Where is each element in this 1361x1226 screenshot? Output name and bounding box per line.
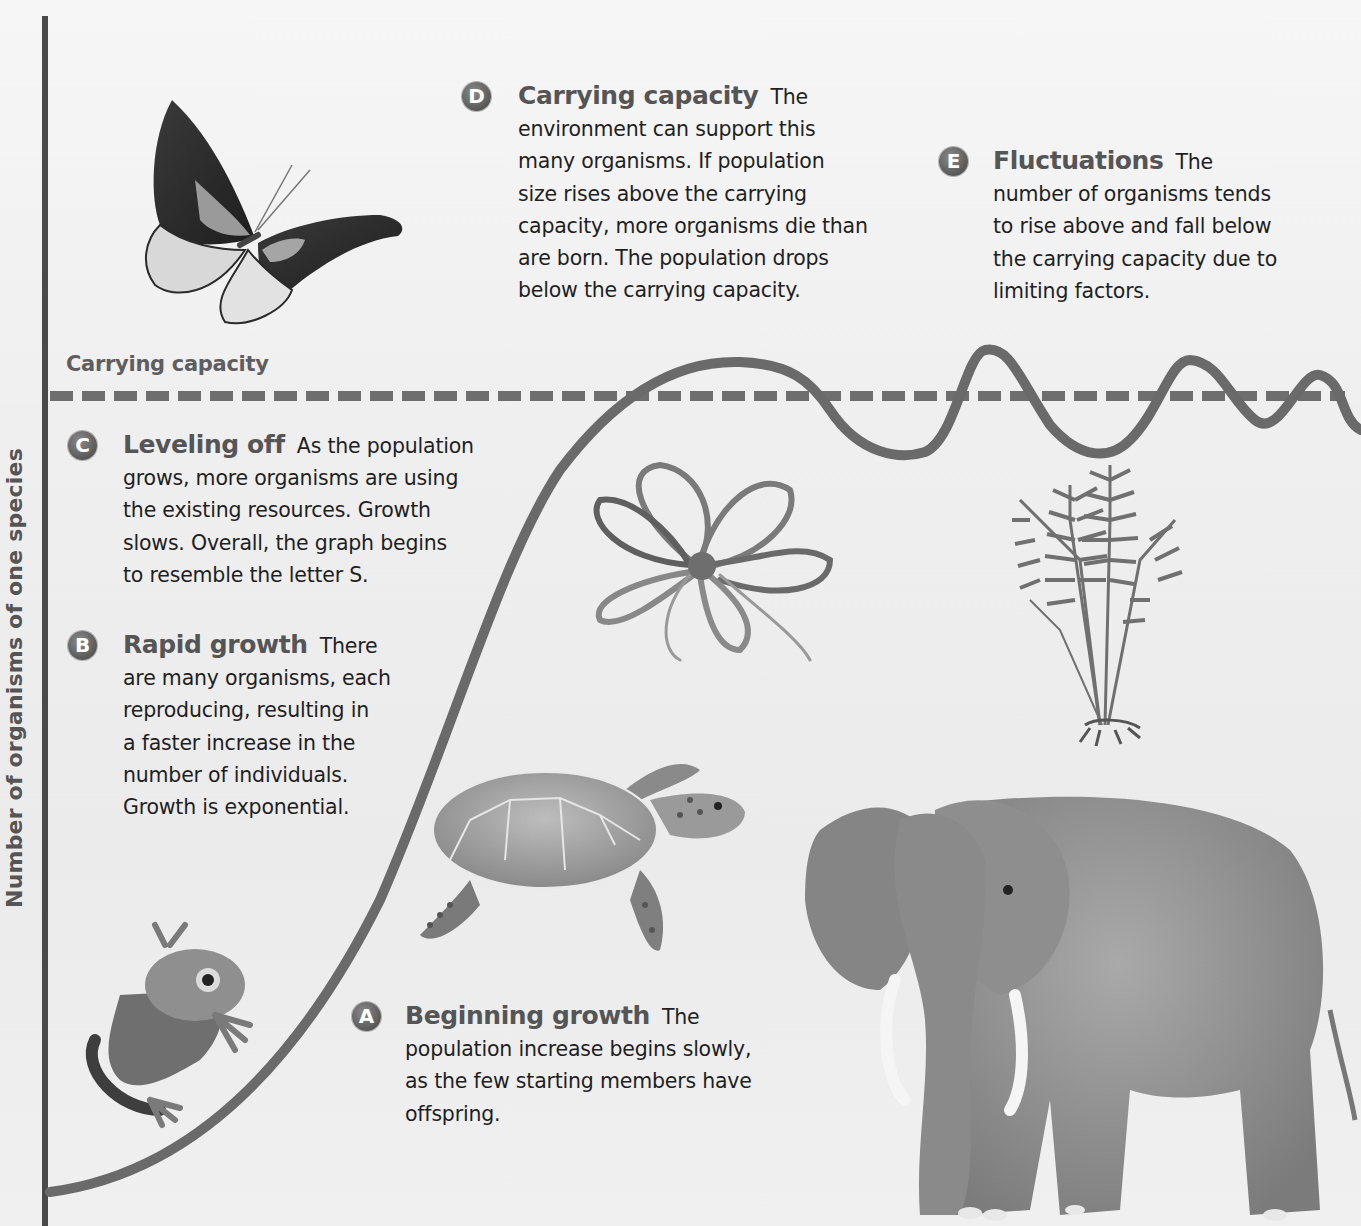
callout-line: capacity, more organisms die than xyxy=(518,210,868,242)
callout-leveling-off: C Leveling off As the population grows, … xyxy=(123,429,474,591)
badge-c-icon: C xyxy=(68,431,97,460)
callout-line: offspring. xyxy=(405,1098,752,1130)
sea-anemone-illustration xyxy=(597,465,830,660)
callout-line: grows, more organisms are using xyxy=(123,462,474,494)
callout-line: number of organisms tends xyxy=(993,178,1277,210)
callout-line: below the carrying capacity. xyxy=(518,274,868,306)
callout-lead: As the population xyxy=(297,430,474,462)
callout-lead: The xyxy=(662,1001,700,1033)
y-axis-line xyxy=(42,16,48,1226)
callout-heading: Carrying capacity xyxy=(518,80,758,112)
callout-line: the carrying capacity due to xyxy=(993,243,1277,275)
callout-line: a faster increase in the xyxy=(123,727,391,759)
callout-line: to resemble the letter S. xyxy=(123,559,474,591)
callout-line: population increase begins slowly, xyxy=(405,1033,752,1065)
callout-heading: Fluctuations xyxy=(993,145,1163,177)
callout-line: to rise above and fall below xyxy=(993,210,1277,242)
callout-beginning-growth: A Beginning growth The population increa… xyxy=(405,1000,752,1130)
badge-e-icon: E xyxy=(939,147,968,176)
frog-illustration xyxy=(92,925,250,1125)
callout-line: the existing resources. Growth xyxy=(123,494,474,526)
callout-rapid-growth: B Rapid growth There are many organisms,… xyxy=(123,629,391,823)
callout-lead: The xyxy=(1175,146,1213,178)
callout-line: reproducing, resulting in xyxy=(123,694,391,726)
carrying-capacity-label: Carrying capacity xyxy=(66,352,269,376)
y-axis-label: Number of organisms of one species xyxy=(2,438,38,918)
callout-line: many organisms. If population xyxy=(518,145,868,177)
fern-illustration xyxy=(1012,465,1182,746)
callout-carrying-capacity: D Carrying capacity The environment can … xyxy=(518,80,868,306)
callout-lead: The xyxy=(770,81,808,113)
callout-line: are born. The population drops xyxy=(518,242,868,274)
badge-b-icon: B xyxy=(68,631,97,660)
callout-line: as the few starting members have xyxy=(405,1065,752,1097)
callout-lead: There xyxy=(320,630,378,662)
callout-line: size rises above the carrying xyxy=(518,178,868,210)
callout-heading: Beginning growth xyxy=(405,1000,650,1032)
callout-line: environment can support this xyxy=(518,113,868,145)
population-growth-diagram: Number of organisms of one species Carry… xyxy=(0,0,1361,1226)
callout-line: number of individuals. xyxy=(123,759,391,791)
elephant-illustration xyxy=(805,797,1355,1221)
callout-line: Growth is exponential. xyxy=(123,791,391,823)
callout-fluctuations: E Fluctuations The number of organisms t… xyxy=(993,145,1277,307)
callout-line: slows. Overall, the graph begins xyxy=(123,527,474,559)
badge-a-icon: A xyxy=(352,1002,381,1031)
callout-line: limiting factors. xyxy=(993,275,1277,307)
callout-heading: Leveling off xyxy=(123,429,285,461)
butterfly-illustration xyxy=(146,100,402,323)
callout-line: are many organisms, each xyxy=(123,662,391,694)
callout-heading: Rapid growth xyxy=(123,629,308,661)
sea-turtle-illustration xyxy=(420,764,745,951)
badge-d-icon: D xyxy=(462,82,491,111)
